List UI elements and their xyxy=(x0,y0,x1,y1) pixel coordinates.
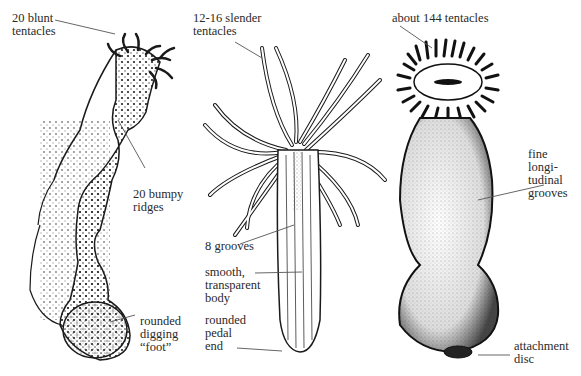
label-20-bumpy-ridges: 20 bumpy ridges xyxy=(133,188,183,214)
label-rounded-digging-foot: rounded digging “foot” xyxy=(140,315,181,354)
label-fine-longitudinal-grooves: fine longi- tudinal grooves xyxy=(528,148,568,200)
label-rounded-pedal-end: rounded pedal end xyxy=(205,314,246,353)
label-20-blunt-tentacles: 20 blunt tentacles xyxy=(12,12,56,38)
middle-anemone-drawing xyxy=(205,48,385,352)
label-8-grooves: 8 grooves xyxy=(205,240,254,253)
label-about-144-tentacles: about 144 tentacles xyxy=(392,12,489,25)
label-attachment-disc: attachment disc xyxy=(514,340,569,366)
illustration-canvas xyxy=(0,0,581,376)
attachment-disc xyxy=(444,346,472,358)
label-smooth-transparent-body: smooth, transparent body xyxy=(205,266,261,305)
mouth-slit xyxy=(434,79,462,85)
label-12-16-slender-tentacles: 12-16 slender tentacles xyxy=(193,12,261,38)
digging-foot xyxy=(63,302,127,358)
